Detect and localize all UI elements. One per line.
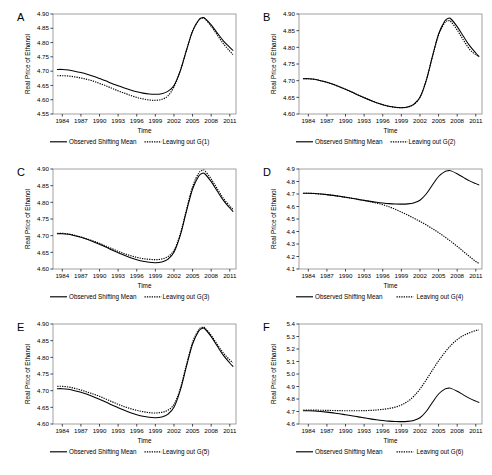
x-tick-label: 1990 bbox=[93, 272, 107, 279]
x-tick-label: 1999 bbox=[148, 117, 162, 124]
series-line-solid bbox=[303, 171, 479, 205]
x-tick-label: 1984 bbox=[55, 272, 69, 279]
x-axis-label: Time bbox=[138, 282, 152, 289]
y-tick-label: 4.7 bbox=[286, 408, 295, 415]
legend-label-observed: Observed Shifting Mean bbox=[69, 448, 137, 456]
legend-label-observed: Observed Shifting Mean bbox=[315, 448, 383, 456]
y-tick-label: 4.9 bbox=[286, 383, 295, 390]
y-tick-label: 5.2 bbox=[286, 345, 295, 352]
x-tick-label: 1984 bbox=[301, 117, 315, 124]
x-tick-label: 2011 bbox=[469, 117, 483, 124]
y-axis-label: Real Price of Ethanol bbox=[270, 344, 277, 404]
y-tick-label: 4.70 bbox=[37, 232, 50, 239]
plot-area-a: 4.554.604.654.704.754.804.854.9019841987… bbox=[0, 0, 246, 155]
plot-area-d: 4.14.24.34.44.54.64.74.84.91984198719901… bbox=[246, 155, 492, 310]
series-line-dotted bbox=[303, 330, 479, 411]
legend-label-leaving-out: Leaving out G(2) bbox=[409, 138, 456, 146]
x-tick-label: 1999 bbox=[394, 272, 408, 279]
legend-label-leaving-out: Leaving out G(4) bbox=[417, 293, 464, 301]
y-tick-label: 4.80 bbox=[37, 199, 50, 206]
panel-b: B4.604.654.704.754.804.854.9019841987199… bbox=[246, 0, 492, 155]
x-tick-label: 2002 bbox=[167, 427, 181, 434]
y-tick-label: 4.75 bbox=[37, 53, 50, 60]
y-tick-label: 4.75 bbox=[283, 60, 296, 67]
x-tick-label: 2011 bbox=[223, 272, 237, 279]
x-tick-label: 1993 bbox=[111, 272, 125, 279]
x-tick-label: 1996 bbox=[376, 117, 390, 124]
x-tick-label: 1990 bbox=[93, 427, 107, 434]
x-tick-label: 1984 bbox=[301, 427, 315, 434]
plot-area-e: 4.604.654.704.754.804.854.90198419871990… bbox=[0, 310, 246, 475]
x-tick-label: 1990 bbox=[339, 117, 353, 124]
x-tick-label: 1987 bbox=[74, 427, 88, 434]
x-axis-label: Time bbox=[384, 437, 398, 444]
x-tick-label: 1984 bbox=[301, 272, 315, 279]
panel-a: A4.554.604.654.704.754.804.854.901984198… bbox=[0, 0, 246, 155]
y-tick-label: 4.60 bbox=[37, 96, 50, 103]
x-tick-label: 1987 bbox=[320, 117, 334, 124]
x-tick-label: 2011 bbox=[469, 272, 483, 279]
y-tick-label: 4.9 bbox=[286, 165, 295, 172]
y-tick-label: 4.4 bbox=[286, 228, 295, 235]
x-tick-label: 2005 bbox=[186, 117, 200, 124]
x-tick-label: 2002 bbox=[413, 272, 427, 279]
y-tick-label: 4.70 bbox=[283, 77, 296, 84]
series-line-solid bbox=[303, 18, 479, 108]
x-tick-label: 1996 bbox=[130, 272, 144, 279]
x-tick-label: 1999 bbox=[394, 117, 408, 124]
x-tick-label: 1990 bbox=[339, 427, 353, 434]
y-axis-label: Real Price of Ethanol bbox=[24, 34, 31, 94]
y-tick-label: 5.3 bbox=[286, 333, 295, 340]
series-line-solid bbox=[303, 388, 479, 422]
y-tick-label: 4.60 bbox=[283, 110, 296, 117]
x-tick-label: 2008 bbox=[450, 427, 464, 434]
y-tick-label: 4.6 bbox=[286, 420, 295, 427]
y-tick-label: 4.65 bbox=[37, 404, 50, 411]
x-tick-label: 1984 bbox=[55, 117, 69, 124]
y-axis-label: Real Price of Ethanol bbox=[24, 189, 31, 249]
panel-c: C4.604.654.704.754.804.854.9019841987199… bbox=[0, 155, 246, 310]
y-tick-label: 4.65 bbox=[37, 82, 50, 89]
panel-d: D4.14.24.34.44.54.64.74.84.9198419871990… bbox=[246, 155, 492, 310]
legend-label-leaving-out: Leaving out G(3) bbox=[163, 293, 210, 301]
y-tick-label: 4.8 bbox=[286, 178, 295, 185]
y-tick-label: 4.6 bbox=[286, 203, 295, 210]
y-tick-label: 4.1 bbox=[286, 265, 295, 272]
figure-panel-grid: A4.554.604.654.704.754.804.854.901984198… bbox=[0, 0, 492, 475]
series-line-solid bbox=[57, 173, 233, 263]
legend-label-leaving-out: Leaving out G(1) bbox=[163, 138, 210, 146]
x-tick-label: 2011 bbox=[223, 117, 237, 124]
y-tick-label: 4.8 bbox=[286, 395, 295, 402]
legend-label-observed: Observed Shifting Mean bbox=[315, 293, 383, 301]
x-tick-label: 2008 bbox=[204, 427, 218, 434]
plot-area-c: 4.604.654.704.754.804.854.90198419871990… bbox=[0, 155, 246, 310]
x-tick-label: 1993 bbox=[357, 272, 371, 279]
series-line-dotted bbox=[303, 20, 479, 107]
x-tick-label: 1993 bbox=[357, 427, 371, 434]
y-tick-label: 4.80 bbox=[37, 39, 50, 46]
y-tick-label: 4.85 bbox=[37, 24, 50, 31]
y-tick-label: 4.60 bbox=[37, 265, 50, 272]
y-tick-label: 4.90 bbox=[37, 165, 50, 172]
x-tick-label: 1996 bbox=[376, 427, 390, 434]
x-tick-label: 1993 bbox=[357, 117, 371, 124]
series-line-solid bbox=[57, 17, 233, 94]
x-axis-label: Time bbox=[384, 127, 398, 134]
legend-label-observed: Observed Shifting Mean bbox=[69, 293, 137, 301]
legend-label-leaving-out: Leaving out G(6) bbox=[417, 448, 464, 456]
x-tick-label: 1990 bbox=[93, 117, 107, 124]
x-tick-label: 2008 bbox=[204, 117, 218, 124]
x-tick-label: 1999 bbox=[394, 427, 408, 434]
y-tick-label: 4.90 bbox=[37, 320, 50, 327]
panel-f: F4.64.74.84.95.05.15.25.35.4198419871990… bbox=[246, 310, 492, 475]
y-axis-label: Real Price of Ethanol bbox=[270, 34, 277, 94]
legend-label-observed: Observed Shifting Mean bbox=[69, 138, 137, 146]
x-tick-label: 2002 bbox=[167, 117, 181, 124]
x-axis-label: Time bbox=[138, 437, 152, 444]
plot-area-f: 4.64.74.84.95.05.15.25.35.41984198719901… bbox=[246, 310, 492, 475]
x-tick-label: 1996 bbox=[130, 117, 144, 124]
x-tick-label: 1999 bbox=[148, 272, 162, 279]
y-tick-label: 4.7 bbox=[286, 190, 295, 197]
y-tick-label: 4.5 bbox=[286, 215, 295, 222]
series-line-dotted bbox=[57, 170, 233, 260]
